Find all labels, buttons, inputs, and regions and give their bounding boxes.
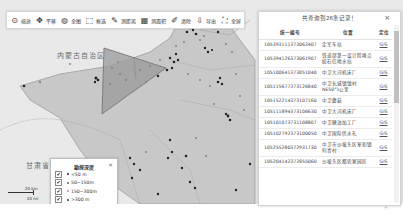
legend-checkbox[interactable]: ✔ xyxy=(55,196,62,203)
table-row: 105393111373062407定军车站GIS xyxy=(259,40,392,51)
legend-label: 150~300m xyxy=(71,189,97,194)
gis-link[interactable]: GIS xyxy=(375,129,392,140)
table-header-row: 统一编号 位置 定位 xyxy=(259,25,392,40)
scale-line xyxy=(8,192,34,193)
measure-distance-label: 测距离 xyxy=(121,17,136,24)
fullscreen-label: 全屏 xyxy=(231,17,241,24)
cell-location: 中卫大河机床厂 xyxy=(321,107,375,118)
table-row: 105101073731108807中卫糖油加工厂GIS xyxy=(259,118,392,129)
legend-dot-icon xyxy=(67,199,69,201)
export-label: 导出 xyxy=(206,17,216,24)
measure-distance-button[interactable]: ✎ 测距离 xyxy=(110,16,136,25)
box-select-label: 框选 xyxy=(96,17,106,24)
gis-link[interactable]: GIS xyxy=(375,51,392,68)
cell-id: 105101073731108807 xyxy=(259,118,321,129)
gis-link[interactable]: GIS xyxy=(375,157,392,168)
area-icon: ▦ xyxy=(140,16,149,25)
gis-link[interactable]: GIS xyxy=(375,96,392,107)
table-row: 105394126373061907铁道部第一设计院堆点统石信地水站GIS xyxy=(259,51,392,68)
full-extent-label: 全图 xyxy=(71,17,81,24)
cell-location: 中卫市沙坡头区室和镇何青村 xyxy=(321,140,375,157)
zoom-icon: ⊙ xyxy=(10,16,19,25)
column-header-id: 统一编号 xyxy=(259,25,321,40)
cell-location: 中卫蘑菇 xyxy=(321,96,375,107)
zoom-button[interactable]: ⊙ 缩放 xyxy=(10,16,31,25)
cell-location: 中卫长城镇镇村NE50°1公里 xyxy=(321,79,375,96)
depth-legend: 勘探深度 × ✔ <50 m ✔ 50~150m ✔ 150~300m ✔ >3… xyxy=(50,158,118,204)
legend-checkbox[interactable]: ✔ xyxy=(55,179,62,186)
results-close-button[interactable]: × xyxy=(384,12,390,25)
results-scrollbar[interactable] xyxy=(394,25,399,203)
table-row: 105204142372855060沙坡头区都农家园区GIS xyxy=(259,157,392,168)
legend-dot-icon xyxy=(67,173,69,175)
scrollbar-thumb[interactable] xyxy=(394,31,399,103)
scale-mi-label: 20 mi xyxy=(27,196,38,201)
cell-id: 105111894373106630 xyxy=(259,107,321,118)
cell-location: 铁道部第一设计院堆点统石信地水站 xyxy=(321,51,375,68)
legend-checkbox[interactable]: ✔ xyxy=(55,171,62,178)
ruler-icon: ✎ xyxy=(110,16,119,25)
table-row: 105152214373107160中卫蘑菇GIS xyxy=(259,96,392,107)
legend-item[interactable]: ✔ <50 m xyxy=(55,170,117,179)
cell-id: 105255280372931730 xyxy=(259,140,321,157)
cursor-hand-icon: ☝ xyxy=(384,204,388,211)
box-select-icon: ⬚ xyxy=(85,16,94,25)
column-header-locate: 定位 xyxy=(375,25,392,40)
measure-area-label: 测面积 xyxy=(151,17,166,24)
cell-location: 定军车站 xyxy=(321,40,375,51)
pan-icon: ✥ xyxy=(35,16,44,25)
export-icon: ⇩ xyxy=(195,16,204,25)
legend-dot-icon xyxy=(67,190,69,192)
legend-item[interactable]: ✔ 50~150m xyxy=(55,179,117,188)
clear-label: 清除 xyxy=(181,17,191,24)
table-row: 105115677373126840中卫长城镇镇村NE50°1公里GIS xyxy=(259,79,392,96)
gis-link[interactable]: GIS xyxy=(375,118,392,129)
legend-label: >300 m xyxy=(71,197,90,202)
cell-location: 沙坡头区都农家园区 xyxy=(321,157,375,168)
clear-button[interactable]: ✐ 清除 xyxy=(170,16,191,25)
pan-button[interactable]: ✥ 平移 xyxy=(35,16,56,25)
pan-label: 平移 xyxy=(46,17,56,24)
globe-icon: ◍ xyxy=(60,16,69,25)
map-toolbar: ⊙ 缩放 ✥ 平移 ◍ 全图 ⬚ 框选 ✎ 测距离 ▦ 测面积 ✐ 清除 ⇩ 导 xyxy=(6,11,245,29)
cell-location: 中卫糖油加工厂 xyxy=(321,118,375,129)
gis-link[interactable]: GIS xyxy=(375,79,392,96)
table-row: 105111894373106630中卫大河机床厂GIS xyxy=(259,107,392,118)
fullscreen-button[interactable]: ⛶ 全屏 xyxy=(220,16,241,25)
table-row: 105100641373051040中卫大河机床厂GIS xyxy=(259,68,392,79)
cell-location: 中卫国际供水礼 xyxy=(321,129,375,140)
legend-close-button[interactable]: × xyxy=(108,161,113,168)
region-label-gansu: 甘肃省 xyxy=(26,160,50,170)
scale-bar: 20 km 20 mi xyxy=(8,186,44,202)
cell-id: 105152214373107160 xyxy=(259,96,321,107)
results-panel: 共查询到26条记录！ × 统一编号 位置 定位 1053931113730624… xyxy=(258,11,401,206)
gis-link[interactable]: GIS xyxy=(375,40,392,51)
box-select-button[interactable]: ⬚ 框选 xyxy=(85,16,106,25)
legend-item[interactable]: ✔ 150~300m xyxy=(55,187,117,196)
table-row: 105255280372931730中卫市沙坡头区室和镇何青村GIS xyxy=(259,140,392,157)
scale-km-label: 20 km xyxy=(25,186,38,191)
fullscreen-icon: ⛶ xyxy=(220,16,229,25)
column-header-location: 位置 xyxy=(321,25,375,40)
legend-item[interactable]: ✔ >300 m xyxy=(55,196,117,205)
scale-tick xyxy=(33,190,34,195)
region-label-inner-mongolia: 内蒙古自治区 xyxy=(57,50,105,60)
gis-link[interactable]: GIS xyxy=(375,140,392,157)
cell-id: 105100641373051040 xyxy=(259,68,321,79)
eraser-icon: ✐ xyxy=(170,16,179,25)
cell-id: 105204142372855060 xyxy=(259,157,321,168)
gis-link[interactable]: GIS xyxy=(375,107,392,118)
results-table-wrap: 统一编号 位置 定位 105393111373062407定军车站GIS 105… xyxy=(259,25,392,205)
measure-area-button[interactable]: ▦ 测面积 xyxy=(140,16,166,25)
zoom-label: 缩放 xyxy=(21,17,31,24)
results-title: 共查询到26条记录！ × xyxy=(259,12,400,25)
cell-id: 105393111373062407 xyxy=(259,40,321,51)
table-row: 105102792373100050中卫国际供水礼GIS xyxy=(259,129,392,140)
full-extent-button[interactable]: ◍ 全图 xyxy=(60,16,81,25)
legend-checkbox[interactable]: ✔ xyxy=(55,188,62,195)
results-table: 统一编号 位置 定位 105393111373062407定军车站GIS 105… xyxy=(259,25,392,168)
export-button[interactable]: ⇩ 导出 xyxy=(195,16,216,25)
gis-link[interactable]: GIS xyxy=(375,68,392,79)
legend-dot-icon xyxy=(67,182,69,184)
legend-label: 50~150m xyxy=(71,180,94,185)
